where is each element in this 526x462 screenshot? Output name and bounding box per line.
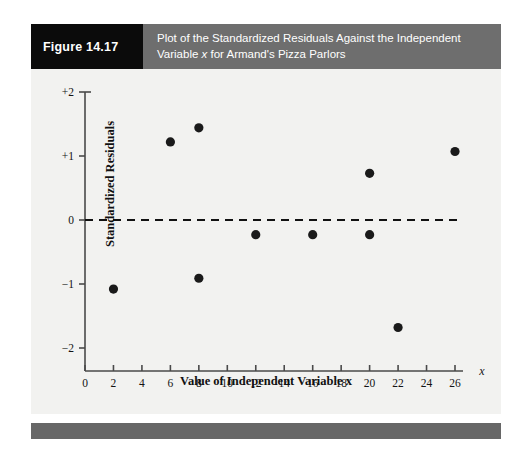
figure-caption: Plot of the Standardized Residuals Again… [143,24,501,69]
data-point [450,147,459,156]
y-tick-label--2: −2 [62,342,74,354]
data-point [251,230,260,239]
figure-number-tag: Figure 14.17 [31,24,143,69]
data-point [194,274,203,283]
scatter-plot: −2−10+1+202468101214161820222426x [31,69,501,414]
x-axis-title: Value of Independent Variable x [31,374,501,389]
y-tick-label--1: −1 [62,278,74,290]
y-tick-label-1: +1 [62,150,74,162]
plot-panel: Standardized Residuals −2−10+1+202468101… [31,69,501,414]
x-axis-title-text: Value of Independent Variable x [180,374,352,388]
data-point [365,169,374,178]
figure-header: Figure 14.17 Plot of the Standardized Re… [31,24,501,69]
caption-line-2-post: for Armand's Pizza Parlors [207,48,345,60]
data-point [365,230,374,239]
figure-container: Figure 14.17 Plot of the Standardized Re… [0,0,526,462]
data-point [194,123,203,132]
caption-line-2-pre: Variable [157,48,202,60]
data-point [109,285,118,294]
data-point [393,323,402,332]
data-point [308,230,317,239]
caption-line-1: Plot of the Standardized Residuals Again… [157,32,461,44]
figure-footer-bar [31,423,501,439]
y-tick-label-2: +2 [62,86,74,98]
y-tick-label-0: 0 [68,214,74,226]
data-point [166,137,175,146]
